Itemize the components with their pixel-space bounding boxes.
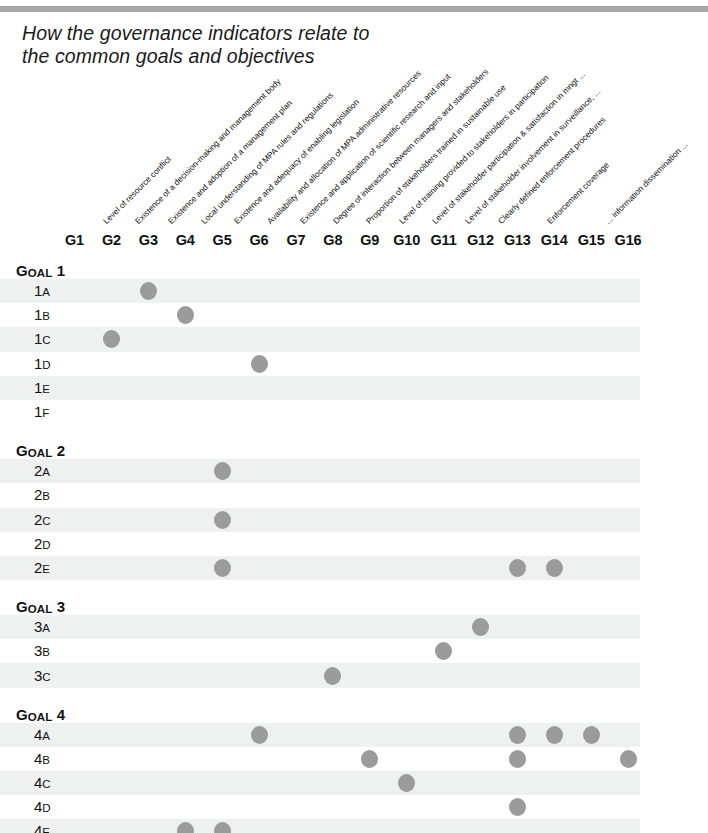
row-label-4a: 4A	[34, 726, 50, 744]
column-header-g2: G2	[102, 232, 121, 248]
matrix-dot-1a-g3[interactable]	[140, 282, 157, 300]
column-header-g3: G3	[139, 232, 158, 248]
matrix-row[interactable]: 4D	[0, 795, 640, 819]
row-label-letter: D	[42, 539, 50, 551]
row-label-letter: D	[42, 359, 50, 371]
matrix-row[interactable]: 1E	[0, 376, 640, 400]
matrix-row[interactable]: 1B	[0, 303, 640, 327]
matrix-row[interactable]: 3A	[0, 615, 640, 639]
row-label-1b: 1B	[34, 306, 50, 324]
matrix-row[interactable]: 1C	[0, 327, 640, 351]
rotated-indicator-labels: Level of resource conflictExistence of a…	[0, 0, 708, 240]
column-header-g8: G8	[323, 232, 342, 248]
column-header-g16: G16	[615, 232, 642, 248]
row-label-letter: B	[42, 310, 50, 322]
column-header-g5: G5	[213, 232, 232, 248]
row-label-letter: A	[42, 466, 50, 478]
goal-heading-number: 1	[52, 262, 65, 279]
matrix-dot-4a-g14[interactable]	[546, 726, 563, 744]
row-label-1f: 1F	[34, 403, 49, 421]
row-label-letter: B	[42, 754, 50, 766]
matrix-dot-1c-g2[interactable]	[103, 330, 120, 348]
matrix-dot-3c-g8[interactable]	[324, 667, 341, 685]
column-header-row: G1G2G3G4G5G6G7G8G9G10G11G12G13G14G15G16	[0, 232, 708, 250]
row-label-3b: 3B	[34, 642, 50, 660]
row-label-letter: C	[42, 334, 50, 346]
column-header-g12: G12	[467, 232, 494, 248]
column-header-g7: G7	[286, 232, 305, 248]
matrix-dot-4a-g15[interactable]	[583, 726, 600, 744]
column-header-g4: G4	[176, 232, 195, 248]
matrix-dot-2c-g5[interactable]	[214, 511, 231, 529]
row-label-letter: B	[42, 646, 50, 658]
matrix-dot-4a-g13[interactable]	[509, 726, 526, 744]
matrix-dot-4e-g5[interactable]	[214, 822, 231, 833]
matrix-row[interactable]: 1A	[0, 279, 640, 303]
figure-page: How the governance indicators relate to …	[0, 0, 708, 833]
matrix-row[interactable]: 4A	[0, 723, 640, 747]
matrix-dot-2e-g14[interactable]	[546, 559, 563, 577]
matrix-dot-4b-g16[interactable]	[620, 750, 637, 768]
indicator-label-15: ... information dissemination ...	[604, 140, 690, 226]
matrix-dot-4e-g4[interactable]	[177, 822, 194, 833]
row-label-letter: E	[42, 563, 50, 575]
matrix-row[interactable]: 4E	[0, 819, 640, 833]
row-label-1c: 1C	[34, 330, 51, 348]
indicator-label-8: Degree of interaction between managers a…	[332, 67, 491, 226]
column-header-g14: G14	[541, 232, 568, 248]
goal-heading-initial: G	[16, 442, 28, 459]
matrix-dot-4d-g13[interactable]	[509, 798, 526, 816]
matrix-row[interactable]: 4C	[0, 771, 640, 795]
goal-section-heading-3: GOAL 3	[0, 594, 708, 615]
column-header-g9: G9	[360, 232, 379, 248]
row-label-letter: A	[42, 730, 50, 742]
row-label-3a: 3A	[34, 618, 50, 636]
matrix-dot-4b-g13[interactable]	[509, 750, 526, 768]
goal-section-3: GOAL 33A3B3C	[0, 594, 708, 688]
matrix-row[interactable]: 3B	[0, 639, 640, 663]
matrix-row[interactable]: 1F	[0, 400, 640, 424]
matrix-dot-1b-g4[interactable]	[177, 306, 194, 324]
matrix-dot-2e-g13[interactable]	[509, 559, 526, 577]
goal-heading-number: 4	[52, 706, 65, 723]
column-header-g13: G13	[504, 232, 531, 248]
row-label-3c: 3C	[34, 667, 51, 685]
matrix-dot-2e-g5[interactable]	[214, 559, 231, 577]
goal-heading-word: OAL	[28, 711, 53, 723]
matrix-row[interactable]: 1D	[0, 352, 640, 376]
indicator-label-3: Existence and adoption of a management p…	[167, 99, 294, 226]
matrix-dot-1d-g6[interactable]	[251, 355, 268, 373]
matrix-row[interactable]: 3C	[0, 663, 640, 687]
row-label-letter: A	[42, 622, 50, 634]
row-label-2d: 2D	[34, 535, 51, 553]
column-header-g6: G6	[250, 232, 269, 248]
row-label-1d: 1D	[34, 355, 51, 373]
matrix-row[interactable]: 2E	[0, 556, 640, 580]
column-header-g15: G15	[578, 232, 605, 248]
row-label-1a: 1A	[34, 282, 50, 300]
row-label-letter: C	[42, 671, 50, 683]
matrix-dot-3a-g12[interactable]	[472, 618, 489, 636]
matrix-row[interactable]: 2A	[0, 459, 640, 483]
matrix-row[interactable]: 2B	[0, 483, 640, 507]
row-label-letter: F	[42, 407, 49, 419]
matrix-row[interactable]: 2D	[0, 532, 640, 556]
goal-heading-number: 2	[52, 442, 65, 459]
goal-heading-word: OAL	[28, 447, 53, 459]
matrix-dot-2a-g5[interactable]	[214, 462, 231, 480]
goal-indicator-matrix: GOAL 11A1B1C1D1E1FGOAL 22A2B2C2D2EGOAL 3…	[0, 258, 708, 833]
goal-heading-word: OAL	[28, 267, 53, 279]
matrix-row[interactable]: 4B	[0, 747, 640, 771]
section-spacer	[0, 424, 708, 438]
goal-section-heading-4: GOAL 4	[0, 702, 708, 723]
matrix-dot-4a-g6[interactable]	[251, 726, 268, 744]
matrix-row[interactable]: 2C	[0, 508, 640, 532]
matrix-dot-4c-g10[interactable]	[398, 774, 415, 792]
matrix-dot-4b-g9[interactable]	[361, 750, 378, 768]
goal-heading-initial: G	[16, 598, 28, 615]
row-label-4c: 4C	[34, 774, 51, 792]
goal-heading-initial: G	[16, 262, 28, 279]
row-label-4b: 4B	[34, 750, 50, 768]
matrix-dot-3b-g11[interactable]	[435, 642, 452, 660]
row-label-letter: C	[42, 778, 50, 790]
